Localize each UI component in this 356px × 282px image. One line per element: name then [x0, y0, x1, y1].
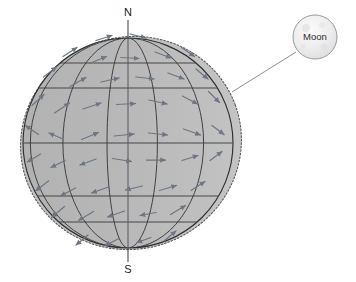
tidal-force-diagram: Moon N S: [0, 0, 356, 282]
diagram-canvas: Moon N S: [0, 0, 356, 282]
moon-label: Moon: [303, 31, 327, 42]
moon-crater-icon: [319, 22, 325, 28]
moon-crater-icon: [301, 44, 306, 49]
south-pole-label: S: [124, 263, 131, 275]
moon-crater-icon: [321, 44, 328, 51]
moon-graphic: Moon: [293, 15, 337, 59]
moon-connector-line: [232, 52, 296, 92]
north-pole-label: N: [124, 6, 132, 18]
